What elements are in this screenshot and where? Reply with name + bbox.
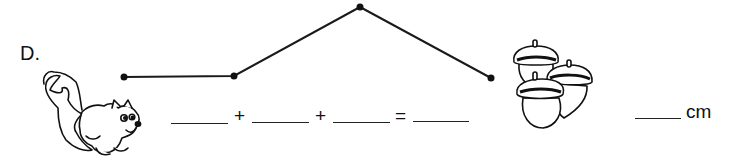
- answer-blank-3[interactable]: [333, 122, 390, 123]
- plus-operator-2: +: [315, 106, 326, 125]
- answer-blank-2[interactable]: [252, 122, 309, 123]
- equals-operator: =: [395, 106, 406, 125]
- plus-operator-1: +: [234, 106, 245, 125]
- unit-label: cm: [686, 101, 711, 123]
- answer-blank-cm[interactable]: [635, 118, 681, 119]
- answer-blank-1[interactable]: [171, 123, 228, 124]
- acorns-icon: [0, 0, 745, 161]
- answer-blank-sum[interactable]: [413, 121, 469, 122]
